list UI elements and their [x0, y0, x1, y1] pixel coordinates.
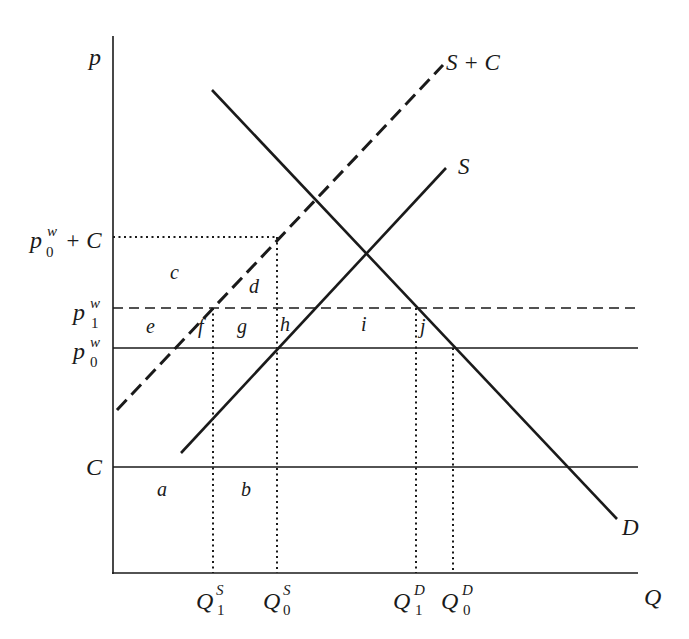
q1d-base: Q — [393, 589, 410, 613]
q0s-sub: 0 — [283, 603, 291, 618]
q1d-label: Q D 1 — [393, 583, 433, 623]
p0w-plus-c-label: p w 0 + C — [30, 224, 112, 260]
supply-plus-cost-curve — [117, 65, 443, 410]
p0w-sub: 0 — [90, 355, 98, 370]
p1w-sup: w — [90, 296, 100, 311]
p1w-sub: 1 — [91, 316, 99, 331]
p0w-plus-c-suffix: + C — [65, 229, 102, 252]
y-axis-label: p — [89, 45, 101, 69]
p0w-plus-c-sup: w — [47, 224, 57, 239]
p0w-plus-c-sub: 0 — [46, 245, 54, 260]
c-level-label: C — [86, 455, 102, 479]
area-label-j: j — [420, 316, 426, 336]
supply-label: S — [458, 155, 470, 178]
supply-demand-diagram: p Q S + C S D p w 0 + C p w 1 p w 0 C Q … — [0, 0, 689, 639]
q0s-label: Q S 0 — [263, 583, 303, 623]
supply-curve — [181, 168, 446, 453]
q1s-sup: S — [216, 583, 224, 598]
area-label-e: e — [146, 316, 155, 336]
p0w-sup: w — [90, 335, 100, 350]
q1d-sup: D — [414, 583, 425, 598]
p0w-plus-c-base: p — [30, 228, 42, 252]
area-label-h: h — [280, 314, 290, 334]
area-label-f: f — [198, 316, 204, 336]
p1w-base: p — [73, 300, 85, 324]
q0d-base: Q — [441, 589, 458, 613]
area-label-d: d — [249, 276, 259, 296]
q0d-sub: 0 — [463, 603, 471, 618]
q1s-base: Q — [196, 589, 213, 613]
area-label-b: b — [241, 479, 251, 499]
area-label-c: c — [170, 262, 179, 282]
demand-label: D — [622, 516, 639, 539]
area-label-a: a — [157, 479, 167, 499]
q0d-label: Q D 0 — [441, 583, 481, 623]
q1s-sub: 1 — [217, 603, 225, 618]
q0s-base: Q — [263, 589, 280, 613]
q0s-sup: S — [283, 583, 291, 598]
supply-plus-cost-label: S + C — [446, 51, 500, 74]
area-label-g: g — [237, 316, 247, 336]
x-axis-label: Q — [644, 585, 661, 609]
q1d-sub: 1 — [415, 603, 423, 618]
p0w-label: p w 0 — [73, 335, 109, 371]
p0w-base: p — [73, 339, 85, 363]
demand-curve — [212, 90, 617, 519]
q0d-sup: D — [462, 583, 473, 598]
q1s-label: Q S 1 — [196, 583, 236, 623]
area-label-i: i — [361, 314, 367, 334]
p1w-label: p w 1 — [73, 296, 109, 332]
